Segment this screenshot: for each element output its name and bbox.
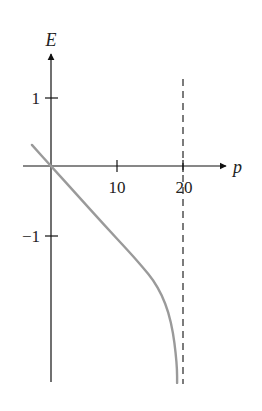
y-tick-label-1: 1 [32, 89, 41, 108]
x-axis-label: p [231, 157, 242, 177]
chart: E p 10 20 1 −1 [0, 0, 262, 411]
x-tick-label-20: 20 [176, 178, 193, 197]
y-axis-label: E [45, 30, 57, 50]
y-tick-label-m1: −1 [22, 227, 40, 246]
x-tick-label-10: 10 [109, 178, 126, 197]
energy-curve [32, 145, 177, 383]
